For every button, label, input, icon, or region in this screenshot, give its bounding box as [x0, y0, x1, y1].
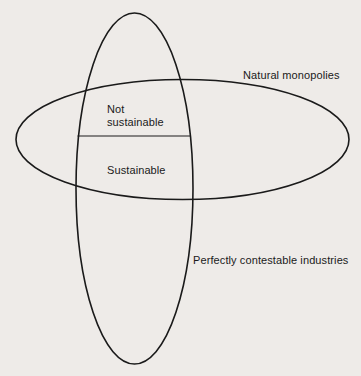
not-sustainable-label-line2: sustainable — [107, 116, 164, 129]
diagram-canvas — [0, 0, 361, 376]
not-sustainable-label-line1: Not — [107, 103, 124, 116]
sustainable-label: Sustainable — [107, 164, 166, 177]
venn-diagram: Natural monopolies Not sustainable Susta… — [0, 0, 361, 376]
perfectly-contestable-industries-label: Perfectly contestable industries — [193, 254, 348, 267]
natural-monopolies-ellipse — [16, 80, 349, 200]
contestable-industries-ellipse — [76, 13, 193, 364]
natural-monopolies-label: Natural monopolies — [243, 69, 340, 82]
